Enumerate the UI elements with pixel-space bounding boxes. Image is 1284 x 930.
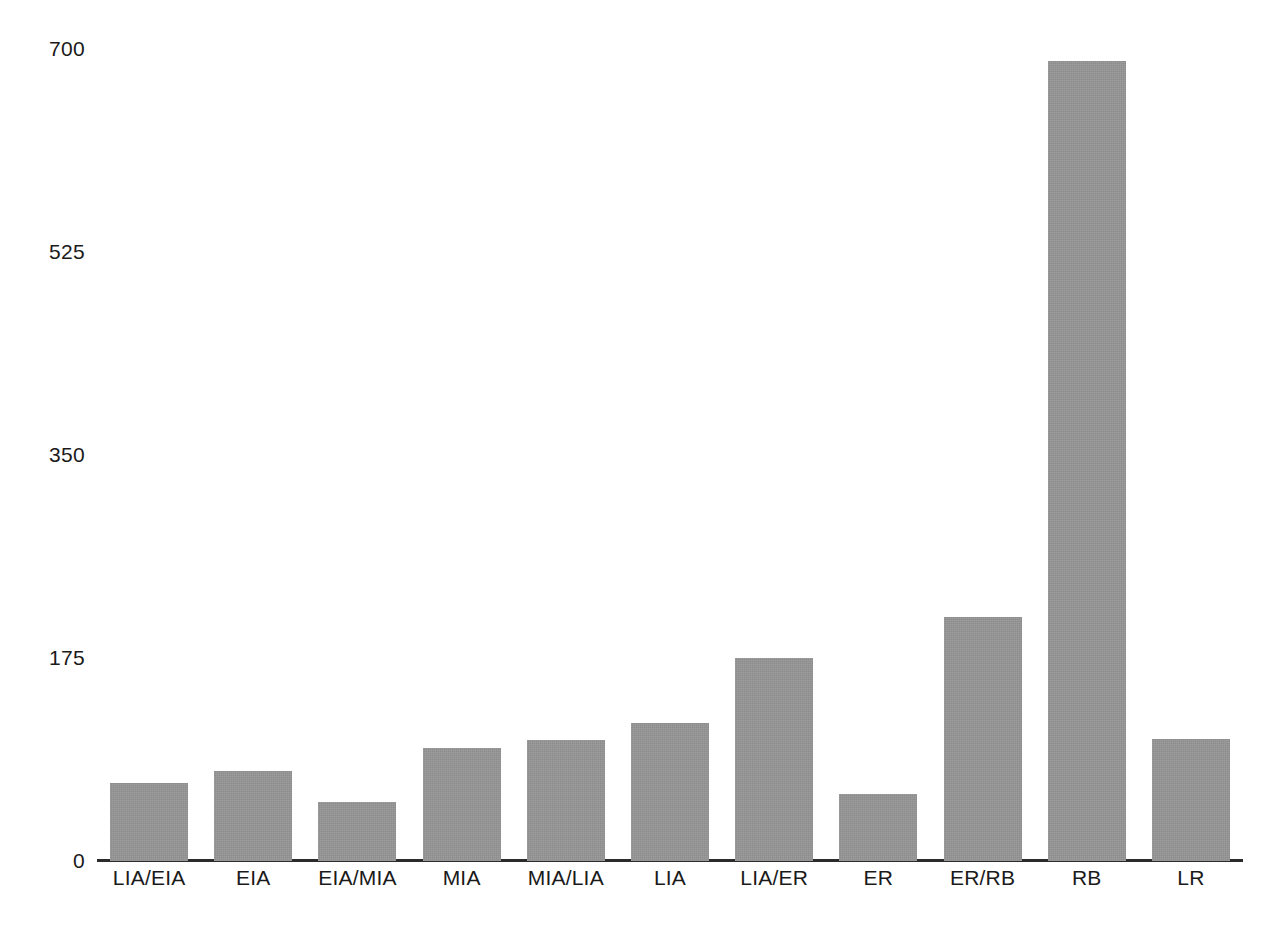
bar-er-rb (930, 20, 1034, 861)
x-tick-label-7: ER (864, 866, 894, 890)
bar-rect (735, 658, 813, 861)
bar-lr (1139, 20, 1243, 861)
bar-rect (1048, 61, 1126, 861)
y-tick-label-2: 350 (49, 443, 85, 467)
bar-eia (201, 20, 305, 861)
x-tick-label-1: EIA (236, 866, 270, 890)
bar-rect (1152, 739, 1230, 861)
bar-mia-lia (514, 20, 618, 861)
bar-mia (410, 20, 514, 861)
x-tick-label-2: EIA/MIA (318, 866, 396, 890)
x-tick-label-0: LIA/EIA (113, 866, 186, 890)
bar-rect (214, 771, 292, 861)
bar-lia-eia (97, 20, 201, 861)
bar-chart: 0 175 350 525 700 LIA/EIAEIAEIA/MIAMIAMI… (0, 0, 1284, 930)
x-tick-label-5: LIA (654, 866, 686, 890)
y-tick-label-3: 525 (49, 240, 85, 264)
bar-rect (944, 617, 1022, 861)
bar-rect (318, 802, 396, 861)
y-tick-label-1: 175 (49, 646, 85, 670)
bar-series (97, 20, 1243, 861)
x-tick-label-6: LIA/ER (740, 866, 808, 890)
bar-rect (423, 748, 501, 861)
y-tick-label-0: 0 (73, 849, 85, 873)
bar-rect (527, 740, 605, 861)
bar-er (826, 20, 930, 861)
bar-lia-er (722, 20, 826, 861)
bar-rect (110, 783, 188, 861)
bar-lia (618, 20, 722, 861)
bar-eia-mia (305, 20, 409, 861)
bar-rect (839, 794, 917, 861)
x-tick-label-10: LR (1177, 866, 1204, 890)
x-tick-label-3: MIA (443, 866, 481, 890)
x-tick-label-8: ER/RB (950, 866, 1015, 890)
bar-rb (1035, 20, 1139, 861)
x-axis: LIA/EIAEIAEIA/MIAMIAMIA/LIALIALIA/ERERER… (97, 866, 1243, 900)
x-tick-label-9: RB (1072, 866, 1102, 890)
x-tick-label-4: MIA/LIA (528, 866, 604, 890)
y-tick-label-4: 700 (49, 37, 85, 61)
bar-rect (631, 723, 709, 861)
